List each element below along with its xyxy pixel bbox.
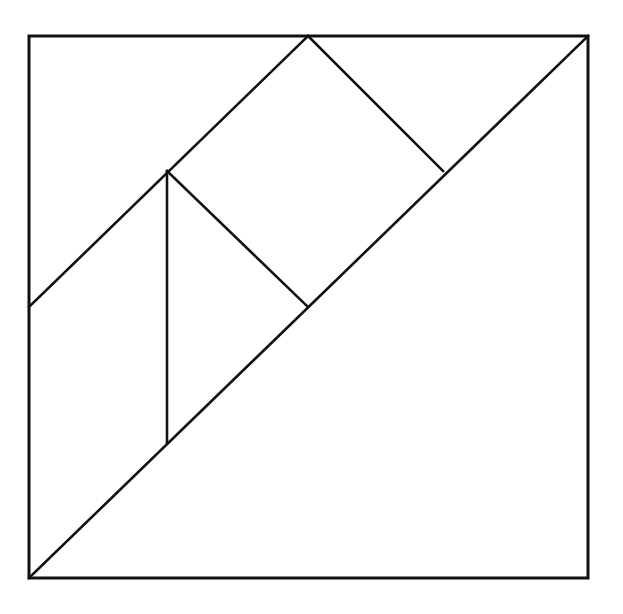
tangram-figure — [0, 0, 623, 614]
tangram-canvas — [0, 0, 623, 614]
